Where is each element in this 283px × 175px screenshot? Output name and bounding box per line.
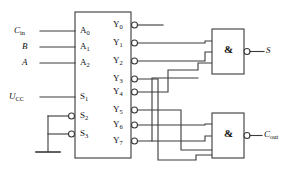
wire-y1-to-sum-gate (138, 41, 213, 43)
pin-label-s1: S1 (80, 92, 88, 101)
y4-bubble (132, 89, 138, 95)
pin-label-y5: Y5 (113, 105, 123, 114)
wire-y3-to-carry-gate (138, 79, 213, 160)
carry-gate-symbol: & (224, 128, 233, 139)
s2-inversion-bubble (69, 113, 75, 119)
y0-bubble (132, 22, 138, 28)
pin-label-a1: A1 (80, 42, 90, 51)
pin-label-y4: Y4 (113, 87, 123, 96)
pin-label-y7: Y7 (113, 136, 123, 145)
sum-gate-output-bubble (244, 49, 250, 55)
pin-label-s2: S2 (80, 111, 88, 120)
wire-y6-to-carry-gate (138, 124, 213, 125)
input-label-ucc: UCC (9, 92, 24, 101)
y2-bubble (132, 58, 138, 64)
wire-y7-to-carry-gate (152, 136, 212, 141)
pin-label-y1: Y1 (113, 38, 123, 47)
schematic-canvas (0, 0, 283, 175)
pin-label-s3: S3 (80, 129, 88, 138)
pin-label-y2: Y2 (113, 56, 123, 65)
input-label-a: A (22, 58, 28, 67)
y1-bubble (132, 40, 138, 46)
input-label-cin: Cin (14, 26, 25, 35)
output-label-cout: Cout (264, 130, 278, 139)
carry-gate-output-bubble (244, 133, 250, 139)
sum-gate-symbol: & (224, 44, 233, 55)
circuit-diagram: Cin B A UCC A0 A1 A2 S1 S2 S3 Y0 Y1 Y2 Y… (0, 0, 283, 175)
wire-y2-to-sum-gate (138, 52, 213, 61)
s3-inversion-bubble (69, 131, 75, 137)
pin-label-y3: Y3 (113, 74, 123, 83)
output-label-s: S (266, 46, 271, 55)
y3-bubble (132, 76, 138, 82)
pin-label-a2: A2 (80, 58, 90, 67)
pin-label-y6: Y6 (113, 120, 123, 129)
y5-bubble (132, 107, 138, 113)
y6-bubble (132, 122, 138, 128)
wire-y5-to-carry-gate (138, 110, 213, 150)
pin-label-y0: Y0 (113, 20, 123, 29)
input-label-b: B (22, 42, 28, 51)
y7-bubble (132, 138, 138, 144)
pin-label-a0: A0 (80, 26, 90, 35)
